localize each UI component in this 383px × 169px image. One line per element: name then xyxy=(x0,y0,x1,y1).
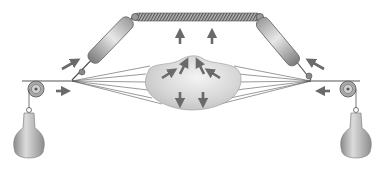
physics-force-diagram xyxy=(0,0,383,169)
membrane xyxy=(145,56,241,110)
right-pulley xyxy=(340,81,356,108)
right-weight xyxy=(341,108,372,159)
left-weight xyxy=(14,108,45,159)
left-turnbuckle xyxy=(72,14,136,80)
spring xyxy=(132,13,264,21)
left-pulley xyxy=(28,81,44,108)
right-turnbuckle xyxy=(254,15,312,80)
arrow-left-turnbuckle xyxy=(62,61,76,69)
arrow-right-turnbuckle xyxy=(310,61,324,69)
